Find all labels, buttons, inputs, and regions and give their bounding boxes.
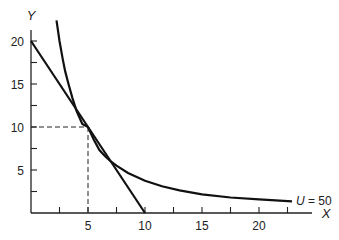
x-tick-label-5: 5 xyxy=(85,219,92,233)
indifference-chart: 5 10 15 20 5 10 15 20 Y X U = 50 xyxy=(0,0,339,240)
axes xyxy=(31,30,312,213)
y-tick-label-15: 15 xyxy=(11,78,25,92)
tangency-guides xyxy=(31,127,88,213)
y-tick-label-10: 10 xyxy=(11,121,25,135)
x-tick-label-10: 10 xyxy=(138,219,152,233)
y-tick-label-20: 20 xyxy=(11,35,25,49)
y-ticks xyxy=(31,41,37,192)
y-axis-title: Y xyxy=(27,8,37,23)
y-tick-label-5: 5 xyxy=(17,164,24,178)
x-tick-label-15: 15 xyxy=(195,219,209,233)
curve-label-u50: U = 50 xyxy=(296,194,332,208)
x-ticks xyxy=(60,207,288,213)
x-axis-title: X xyxy=(321,206,332,221)
indifference-curve-u50 xyxy=(57,20,293,201)
x-tick-label-20: 20 xyxy=(252,219,266,233)
